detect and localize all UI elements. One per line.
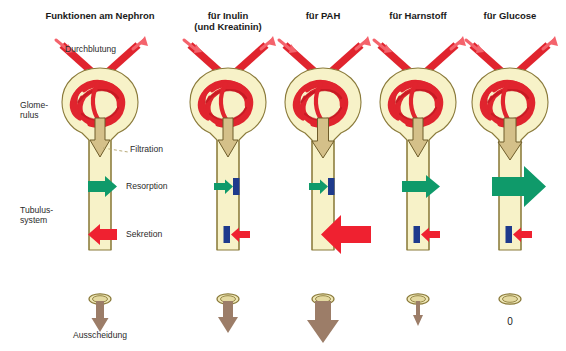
sekretion-block-marker	[224, 226, 231, 243]
resorption-block-marker	[328, 178, 335, 195]
nephron-column-harnstoff	[374, 36, 466, 326]
label-glomerulus: Glome- rulus	[20, 100, 48, 120]
label-filtration: Filtration	[130, 144, 163, 154]
nephron-column-glucose	[466, 36, 558, 304]
ausscheidung-arrow	[92, 301, 109, 332]
sekretion-block-marker	[506, 226, 513, 243]
glucose-excretion-zero: 0	[490, 316, 530, 327]
ausscheidung-arrow-large	[307, 301, 339, 343]
nephron-column-pah	[279, 36, 371, 343]
label-durchblutung: Durchblutung	[65, 44, 116, 54]
label-ausscheidung: Ausscheidung	[50, 330, 150, 340]
label-sekretion: Sekretion	[126, 229, 162, 239]
label-resorption: Resorption	[126, 181, 168, 191]
label-tubulussystem: Tubulus- system	[20, 205, 53, 225]
ausscheidung-arrow-small	[413, 301, 423, 326]
ausscheidung-arrow	[218, 301, 238, 333]
sekretion-block-marker	[414, 226, 421, 243]
resorption-block-marker	[233, 178, 240, 195]
nephron-diagram: Funktionen am Nephron für Inulin (und Kr…	[0, 0, 566, 351]
nephron-column-inulin	[184, 36, 276, 333]
